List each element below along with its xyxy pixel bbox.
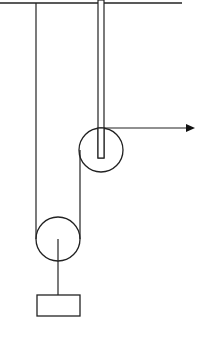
pulley-diagram xyxy=(0,0,199,338)
force-arrow-icon xyxy=(186,124,195,132)
hanging-mass xyxy=(37,295,80,316)
pulley-rod-inner xyxy=(98,128,104,158)
